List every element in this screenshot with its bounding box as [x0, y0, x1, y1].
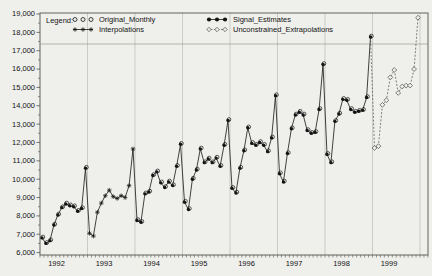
svg-text:17,000: 17,000	[12, 46, 35, 55]
svg-text:1997: 1997	[286, 259, 303, 268]
svg-text:11,000: 11,000	[13, 156, 35, 165]
chart-window: 6,0007,0008,0009,00010,00011,00012,00013…	[0, 0, 432, 276]
svg-text:18,000: 18,000	[12, 28, 35, 37]
svg-text:1998: 1998	[333, 259, 350, 268]
svg-text:1992: 1992	[48, 259, 65, 268]
svg-text:1993: 1993	[96, 259, 113, 268]
svg-text:1996: 1996	[238, 259, 255, 268]
svg-text:15,000: 15,000	[12, 83, 35, 92]
svg-text:1995: 1995	[191, 259, 208, 268]
svg-text:7,000: 7,000	[16, 230, 35, 239]
svg-text:10,000: 10,000	[12, 175, 35, 184]
svg-text:19,000: 19,000	[12, 9, 35, 18]
svg-text:16,000: 16,000	[12, 64, 35, 73]
svg-text:13,000: 13,000	[12, 120, 35, 129]
svg-text:6,000: 6,000	[16, 248, 35, 257]
svg-text:9,000: 9,000	[16, 193, 35, 202]
time-series-chart: 6,0007,0008,0009,00010,00011,00012,00013…	[0, 0, 432, 276]
svg-text:12,000: 12,000	[12, 138, 35, 147]
svg-text:1994: 1994	[143, 259, 160, 268]
svg-text:8,000: 8,000	[16, 211, 35, 220]
svg-text:14,000: 14,000	[12, 101, 35, 110]
svg-text:1999: 1999	[381, 259, 398, 268]
